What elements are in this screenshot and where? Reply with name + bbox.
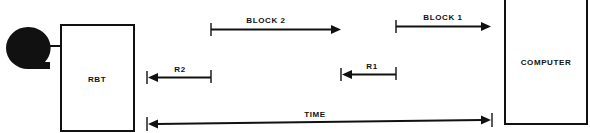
r1-arrow: R1 [341,62,396,81]
rbt-node: RBT [61,25,134,131]
block2-label: BLOCK 2 [246,16,285,25]
timing-diagram: RBT COMPUTER BLOCK 2 BLOCK 1 R2 R1 [0,0,590,133]
r2-label: R2 [174,65,185,74]
arrowhead-right-icon [331,25,341,34]
arrowhead-right-icon [481,22,491,31]
time-arrow: TIME [147,110,492,131]
r2-arrow: R2 [147,65,211,84]
tape-reel-icon [6,27,61,69]
block1-label: BLOCK 1 [423,13,462,22]
r1-label: R1 [366,62,377,71]
rbt-label: RBT [88,75,106,84]
arrowhead-left-icon [342,70,352,79]
computer-label: COMPUTER [521,58,572,67]
block2-arrow: BLOCK 2 [211,16,341,36]
computer-node: COMPUTER [504,0,588,124]
block1-arrow: BLOCK 1 [396,13,491,33]
arrowhead-left-icon [148,120,158,129]
arrowhead-left-icon [148,73,158,82]
arrowhead-right-icon [481,116,491,125]
time-label: TIME [304,110,326,119]
